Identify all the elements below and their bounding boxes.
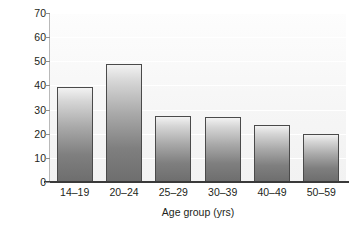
bar-series (50, 13, 346, 182)
bar (155, 116, 191, 182)
x-axis-tick-label: 20–24 (99, 186, 148, 199)
y-axis-tick-label: 0 (22, 177, 46, 188)
x-axis-tick-label: 50–59 (297, 186, 346, 199)
x-axis-tick-label: 40–49 (247, 186, 296, 199)
bar-chart-figure: Percentage 706050403020100 14–1920–2425–… (0, 0, 356, 235)
bar (303, 134, 339, 182)
y-axis-tick-mark (45, 61, 50, 62)
bar (106, 64, 142, 182)
y-axis-tick-mark (45, 158, 50, 159)
x-axis-title: Age group (yrs) (50, 206, 346, 218)
y-axis-tick-mark (45, 134, 50, 135)
y-axis-tick-label-group: 706050403020100 (22, 8, 46, 190)
y-axis-tick-label: 50 (22, 56, 46, 67)
y-axis-tick-mark (45, 110, 50, 111)
y-axis-tick-mark (45, 13, 50, 14)
bar (57, 87, 93, 182)
x-axis-tick-label: 25–29 (149, 186, 198, 199)
x-axis-tick-label-group: 14–1920–2425–2930–3940–4950–59 (50, 186, 346, 202)
y-axis-tick-label: 60 (22, 32, 46, 43)
y-axis-tick-mark (45, 37, 50, 38)
x-axis-tick-label: 30–39 (198, 186, 247, 199)
y-axis-tick-label: 70 (22, 8, 46, 19)
x-axis-tick-label: 14–19 (50, 186, 99, 199)
bar (254, 125, 290, 182)
bar (205, 117, 241, 182)
y-axis-tick-label: 40 (22, 80, 46, 91)
y-axis-tick-label: 30 (22, 105, 46, 116)
y-axis-tick-label: 20 (22, 129, 46, 140)
y-axis-tick-mark (45, 85, 50, 86)
plot-area (50, 13, 346, 182)
x-axis-line (44, 181, 349, 183)
y-axis-tick-mark (45, 182, 50, 183)
y-axis-tick-label: 10 (22, 153, 46, 164)
